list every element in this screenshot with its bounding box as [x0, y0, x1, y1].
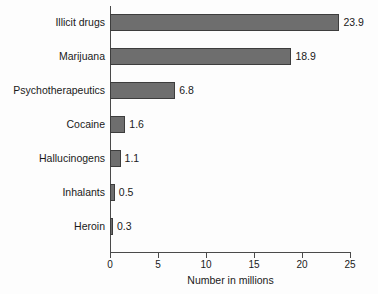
- x-tick-label-5: 5: [146, 259, 170, 271]
- category-label: Psychotherapeutics: [13, 83, 105, 98]
- bar-value-label: 1.6: [129, 117, 144, 132]
- bar-row: Psychotherapeutics6.8: [0, 82, 378, 99]
- bar-value-label: 0.3: [117, 219, 132, 234]
- bar-row: Heroin0.3: [0, 218, 378, 235]
- bar-value-label: 0.5: [119, 185, 134, 200]
- category-label: Hallucinogens: [39, 151, 105, 166]
- category-label: Illicit drugs: [55, 15, 105, 30]
- bar-row: Inhalants0.5: [0, 184, 378, 201]
- bar-row: Illicit drugs23.9: [0, 14, 378, 31]
- x-tick-label-25: 25: [338, 259, 362, 271]
- bar-value-label: 23.9: [343, 15, 363, 30]
- category-label: Heroin: [74, 219, 105, 234]
- x-axis-title: Number in millions: [110, 274, 351, 287]
- x-tick-20: [302, 253, 303, 258]
- bar-chart: 0510152025 Illicit drugs23.9Marijuana18.…: [0, 0, 378, 294]
- bar: [110, 82, 175, 99]
- x-tick-label-15: 15: [242, 259, 266, 271]
- bar-row: Hallucinogens1.1: [0, 150, 378, 167]
- bar: [110, 48, 291, 65]
- category-label: Cocaine: [66, 117, 105, 132]
- x-tick-label-0: 0: [98, 259, 122, 271]
- bar: [110, 116, 125, 133]
- x-tick-label-20: 20: [290, 259, 314, 271]
- x-tick-25: [350, 253, 351, 258]
- x-axis-line: [110, 252, 351, 253]
- bar: [110, 14, 339, 31]
- x-tick-5: [158, 253, 159, 258]
- category-label: Inhalants: [62, 185, 105, 200]
- category-label: Marijuana: [59, 49, 105, 64]
- bar-row: Marijuana18.9: [0, 48, 378, 65]
- bar-value-label: 1.1: [125, 151, 140, 166]
- x-tick-15: [254, 253, 255, 258]
- x-tick-10: [206, 253, 207, 258]
- bar: [110, 150, 121, 167]
- bar-value-label: 18.9: [295, 49, 315, 64]
- x-tick-0: [110, 253, 111, 258]
- bar: [110, 218, 113, 235]
- bar-value-label: 6.8: [179, 83, 194, 98]
- bar: [110, 184, 115, 201]
- x-tick-label-10: 10: [194, 259, 218, 271]
- bar-row: Cocaine1.6: [0, 116, 378, 133]
